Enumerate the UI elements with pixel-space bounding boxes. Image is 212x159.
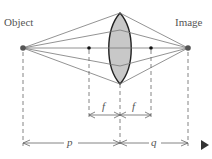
thin-lens-diagram: Object Image f f [0, 0, 212, 159]
object-point [20, 45, 26, 51]
incident-rays [23, 13, 120, 84]
ray-2-incident [23, 30, 120, 48]
ray-5-incident [23, 48, 120, 84]
play-triangle-icon[interactable] [201, 140, 209, 150]
focal-point-left [87, 46, 91, 50]
ray-1-incident [23, 13, 120, 48]
image-distance-label: q [151, 136, 157, 148]
focal-point-right [149, 46, 153, 50]
converging-lens [109, 13, 132, 84]
ray-4-incident [23, 48, 120, 66]
image-label: Image [175, 16, 203, 28]
object-distance-label: p [66, 136, 73, 148]
object-label: Object [4, 16, 33, 28]
image-point [185, 45, 191, 51]
